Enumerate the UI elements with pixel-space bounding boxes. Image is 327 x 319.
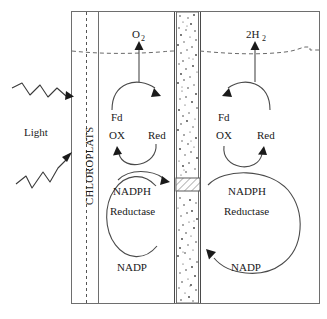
- left-lower-u-arc-arrowhead: [113, 146, 122, 156]
- right-ox-label: OX: [216, 129, 232, 141]
- right-cycle-group: Fd OX Red NADPH Reductase NADP: [206, 82, 300, 273]
- chloroplast-label-group: CHLOROPLATS: [84, 127, 95, 206]
- right-enzyme-label-line2: Reductase: [224, 205, 269, 217]
- right-gas-output-group: 2H 2: [246, 28, 266, 82]
- right-fd-label: Fd: [218, 111, 230, 123]
- left-gas-label: O: [132, 28, 140, 40]
- light-ray-lower: [16, 152, 72, 188]
- right-gas-subscript: 2: [262, 34, 266, 43]
- left-enzyme-label-line2: Reductase: [110, 205, 155, 217]
- membrane-port-hatched-box: [176, 178, 200, 191]
- diagram-svg: CHLOROPLATS: [0, 0, 327, 319]
- membrane-stipple-texture: [177, 14, 198, 302]
- right-gas-arrowhead: [251, 41, 260, 50]
- right-upper-arc: [228, 82, 270, 110]
- right-lower-u-arc-arrowhead: [258, 146, 267, 155]
- left-lower-u-arc: [119, 144, 156, 165]
- right-enzyme-label-line1: NADPH: [228, 185, 266, 197]
- left-red-label: Red: [148, 129, 166, 141]
- left-gas-output-group: O 2: [132, 28, 145, 82]
- diagram-canvas: CHLOROPLATS: [0, 0, 327, 319]
- left-upper-arc-arrowhead: [151, 88, 161, 97]
- center-membrane: [175, 12, 201, 303]
- left-to-membrane-arc: [118, 172, 163, 181]
- left-gas-subscript: 2: [141, 34, 145, 43]
- left-enzyme-label-line1: NADPH: [113, 185, 151, 197]
- right-lower-u-arc: [224, 146, 262, 167]
- left-nadp-label: NADP: [117, 261, 147, 273]
- right-upper-arc-arrowhead: [222, 88, 232, 97]
- left-fd-label: Fd: [111, 111, 123, 123]
- right-nadp-label: NADP: [231, 261, 261, 273]
- chloroplast-label: CHLOROPLATS: [84, 127, 95, 206]
- left-ox-label: OX: [109, 129, 125, 141]
- left-cycle-group: Fd OX Red NADPH Reductase NADP: [107, 82, 170, 273]
- light-ray-upper: [12, 83, 74, 100]
- right-gas-label: 2H: [246, 28, 260, 40]
- left-upper-arc: [112, 82, 155, 110]
- right-red-label: Red: [257, 129, 275, 141]
- water-level-dashed-line: [72, 47, 319, 54]
- light-label: Light: [24, 126, 48, 138]
